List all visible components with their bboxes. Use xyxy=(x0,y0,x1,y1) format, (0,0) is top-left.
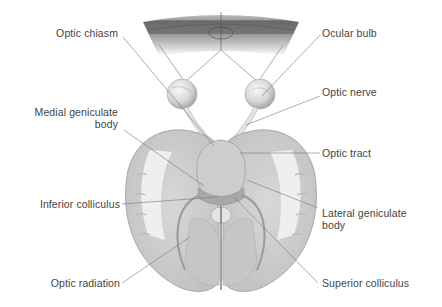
label-optic-tract: Optic tract xyxy=(322,147,371,159)
label-lateral-geniculate-body: Lateral geniculate body xyxy=(322,207,407,231)
label-ocular-bulb: Ocular bulb xyxy=(322,27,377,39)
label-lateral-geniculate-line2: body xyxy=(322,219,407,231)
label-superior-colliculus: Superior colliculus xyxy=(322,277,409,289)
label-optic-radiation: Optic radiation xyxy=(51,277,120,289)
label-inferior-colliculus: Inferior colliculus xyxy=(40,198,120,210)
brain-section xyxy=(125,130,316,292)
label-optic-nerve: Optic nerve xyxy=(322,86,377,98)
label-lateral-geniculate-line1: Lateral geniculate xyxy=(322,207,407,219)
visual-field xyxy=(143,12,299,56)
label-medial-geniculate-line1: Medial geniculate xyxy=(35,106,118,118)
visual-pathway-illustration xyxy=(0,0,442,307)
label-optic-chiasm: Optic chiasm xyxy=(56,27,118,39)
label-medial-geniculate-body: Medial geniculate body xyxy=(35,106,118,130)
ocular-bulbs xyxy=(167,79,275,109)
label-medial-geniculate-line2: body xyxy=(35,118,118,130)
